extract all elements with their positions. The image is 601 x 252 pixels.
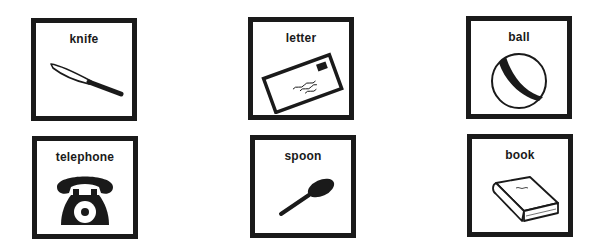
ball-icon	[471, 43, 567, 113]
card-label: spoon	[255, 149, 351, 163]
card-label: knife	[36, 32, 132, 46]
card-label: book	[472, 148, 568, 162]
telephone-icon	[37, 163, 133, 233]
card-label: ball	[471, 30, 567, 44]
letter-icon	[253, 44, 349, 114]
card-ball[interactable]: ball	[466, 16, 572, 119]
card-letter[interactable]: letter	[248, 17, 354, 120]
card-label: telephone	[37, 150, 133, 164]
card-telephone[interactable]: telephone	[32, 136, 138, 239]
card-label: letter	[253, 31, 349, 45]
card-knife[interactable]: knife	[31, 18, 137, 121]
card-book[interactable]: book	[467, 134, 573, 237]
book-icon	[472, 161, 568, 231]
card-spoon[interactable]: spoon	[250, 135, 356, 238]
knife-icon	[36, 45, 132, 115]
spoon-icon	[255, 162, 351, 232]
